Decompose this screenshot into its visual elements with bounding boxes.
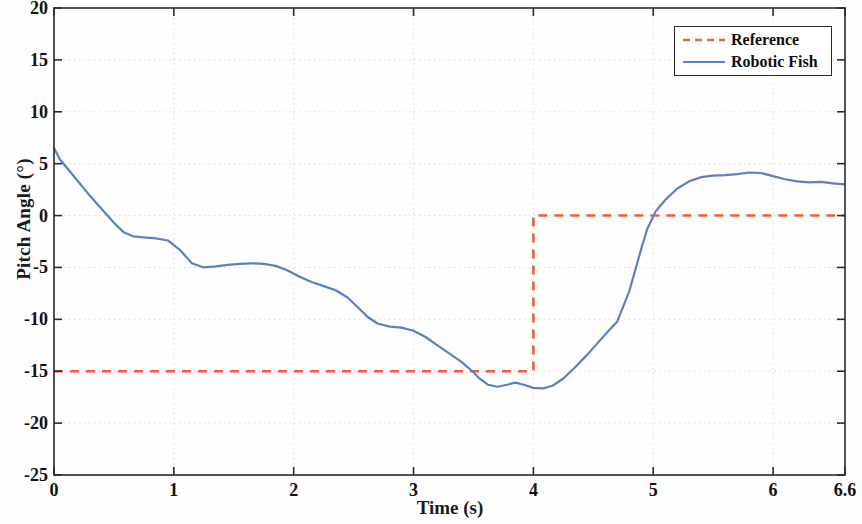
pitch-angle-chart-figure: Pitch Angle (°) 20151050-5-10-15-20-25 0…: [0, 0, 862, 524]
grid-lines: [54, 8, 845, 475]
series-line-reference: [54, 216, 845, 372]
legend-swatch-robotic-fish: [681, 51, 727, 73]
legend-item-reference: Reference: [681, 29, 827, 51]
tick-marks: [54, 8, 845, 475]
legend-label-reference: Reference: [731, 29, 799, 51]
legend-item-robotic-fish: Robotic Fish: [681, 51, 827, 73]
plot-area: [0, 0, 862, 524]
axis-frame: [54, 8, 845, 475]
series-line-robotic-fish: [54, 148, 845, 388]
legend-label-robotic-fish: Robotic Fish: [731, 51, 818, 73]
legend-swatch-reference: [681, 29, 727, 51]
chart-legend: Reference Robotic Fish: [674, 26, 832, 76]
